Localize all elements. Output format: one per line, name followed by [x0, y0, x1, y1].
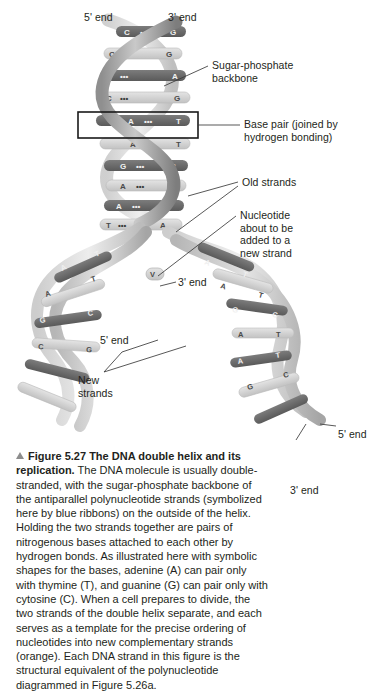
svg-text:C: C: [124, 28, 130, 37]
label-five-prime-bottom-right: 5' end: [338, 428, 367, 441]
svg-text:G: G: [39, 315, 46, 325]
svg-text:G: G: [86, 345, 93, 354]
svg-text:G: G: [174, 94, 180, 103]
upper-helix: C•••G C•••G T•••A C•••G A•••T A•••T G•••…: [78, 20, 198, 230]
label-new-strands: New strands: [78, 374, 113, 399]
replication-fork-right-branch: A T A T G C A T A T G C: [168, 232, 320, 425]
figure-caption: Figure 5.27 The DNA double helix and its…: [16, 449, 268, 692]
svg-text:A: A: [120, 182, 126, 191]
svg-text:A: A: [116, 202, 122, 211]
caption-body-text: The DNA molecule is usually double-stran…: [16, 464, 268, 690]
svg-text:•••: •••: [132, 202, 141, 211]
svg-text:T: T: [257, 290, 264, 300]
label-old-strands: Old strands: [242, 176, 296, 189]
caption-triangle-icon: [16, 452, 24, 459]
label-sugar-phosphate-backbone: Sugar-phosphate backbone: [212, 59, 293, 84]
label-three-prime-top-right: 3' end: [168, 11, 197, 24]
svg-text:•••: •••: [136, 162, 145, 171]
svg-text:T: T: [106, 221, 111, 230]
label-nucleotide-about-to-be-added: Nucleotide about to be added to a new st…: [240, 209, 293, 259]
svg-text:G: G: [246, 382, 254, 392]
label-base-pair: Base pair (joined by hydrogen bonding): [244, 118, 338, 143]
label-three-prime-bottom-right: 3' end: [290, 484, 319, 497]
svg-text:T: T: [276, 330, 281, 339]
caption-figure-number: Figure 5.27: [28, 450, 86, 462]
svg-text:T: T: [176, 140, 181, 149]
svg-text:A: A: [219, 281, 227, 291]
svg-text:•••: •••: [144, 117, 153, 126]
label-five-prime-fork: 5' end: [100, 334, 129, 347]
svg-text:•••: •••: [118, 221, 127, 230]
svg-text:V: V: [150, 270, 155, 279]
free-nucleotide: V: [146, 268, 164, 280]
svg-text:•••: •••: [120, 72, 129, 81]
dna-double-helix-illustration: C•••G C•••G T•••A C•••G A•••T A•••T G•••…: [0, 0, 380, 452]
label-three-prime-fork: 3' end: [178, 276, 207, 289]
svg-text:A: A: [238, 330, 244, 339]
svg-text:G: G: [232, 305, 239, 315]
svg-text:T: T: [176, 117, 181, 126]
svg-text:G: G: [166, 50, 172, 59]
svg-text:•••: •••: [136, 182, 145, 191]
svg-text:A: A: [44, 288, 52, 298]
label-five-prime-top-left: 5' end: [84, 11, 113, 24]
svg-text:G: G: [120, 162, 126, 171]
svg-text:•••: •••: [120, 94, 129, 103]
